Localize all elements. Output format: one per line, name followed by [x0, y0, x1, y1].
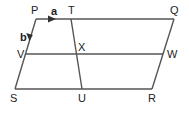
- label-x: X: [78, 41, 86, 53]
- vector-b-label: b: [20, 31, 27, 43]
- label-u: U: [78, 92, 86, 104]
- label-p: P: [31, 4, 38, 16]
- label-s: S: [10, 92, 17, 104]
- label-r: R: [148, 92, 156, 104]
- label-w: W: [167, 48, 178, 60]
- label-v: V: [17, 48, 25, 60]
- label-q: Q: [170, 4, 179, 16]
- label-t: T: [68, 4, 75, 16]
- vector-a-label: a: [51, 5, 58, 17]
- parallelogram-diagram: P a T Q b V X W S U R: [0, 0, 189, 114]
